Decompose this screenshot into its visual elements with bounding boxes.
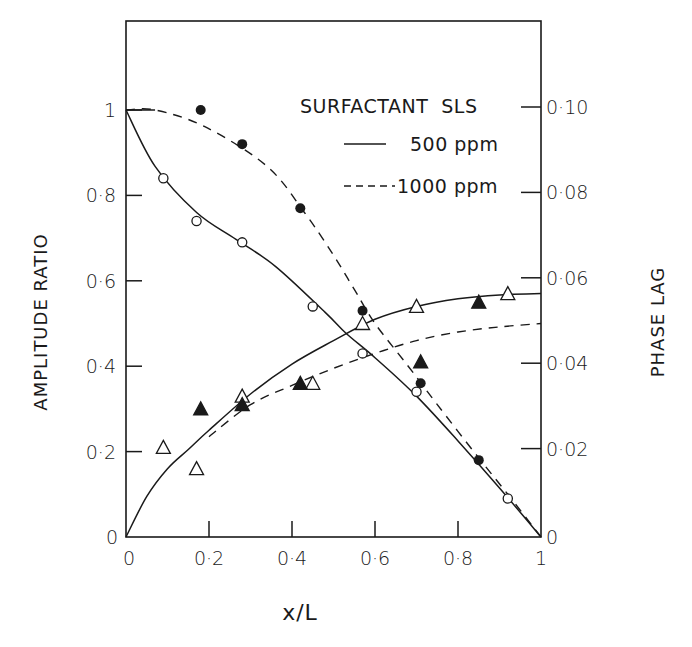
open-circle-marker-icon xyxy=(412,387,421,396)
y-tick-label-left: 0·4 xyxy=(86,355,116,377)
y-tick-label-right: 0 xyxy=(546,526,558,548)
filled-triangle-marker-icon xyxy=(414,355,428,368)
x-axis-title: x/L xyxy=(282,600,318,625)
legend-entry-500ppm: 500 ppm xyxy=(410,133,498,155)
x-tick-label: 0 xyxy=(123,547,135,569)
y-axis-title-left: AMPLITUDE RATIO xyxy=(30,233,51,410)
y-tick-label-right: 0·06 xyxy=(546,267,588,289)
x-tick-label: 0·6 xyxy=(360,547,390,569)
chart: 00·20·40·60·8100·20·40·60·8100·020·040·0… xyxy=(0,0,692,647)
fit-curve-5 xyxy=(126,109,541,537)
y-tick-label-left: 0·8 xyxy=(86,184,116,206)
fit-curve-7 xyxy=(209,324,541,437)
y-tick-label-left: 0 xyxy=(106,526,118,548)
filled-circle-marker-icon xyxy=(196,105,206,115)
open-triangle-marker-icon xyxy=(501,287,515,300)
open-triangle-marker-icon xyxy=(156,440,170,453)
legend-entry-1000ppm: 1000 ppm xyxy=(397,175,498,197)
fit-curves xyxy=(126,109,541,537)
open-triangle-marker-icon xyxy=(190,462,204,475)
x-tick-label: 0·8 xyxy=(443,547,473,569)
y-tick-label-right: 0·08 xyxy=(546,181,588,203)
filled-triangle-marker-icon xyxy=(194,402,208,415)
fit-curve-6 xyxy=(126,294,541,537)
open-circle-marker-icon xyxy=(159,174,168,183)
filled-circle-marker-icon xyxy=(474,455,484,465)
y-tick-label-right: 0·02 xyxy=(546,438,588,460)
filled-circle-marker-icon xyxy=(358,306,368,316)
filled-circle-marker-icon xyxy=(237,139,247,149)
y-tick-label-left: 0·2 xyxy=(86,441,116,463)
open-circle-marker-icon xyxy=(358,349,367,358)
filled-circle-marker-icon xyxy=(295,203,305,213)
open-circle-marker-icon xyxy=(238,238,247,247)
y-axis-title-right: PHASE LAG xyxy=(647,267,668,378)
x-tick-label: 1 xyxy=(535,547,547,569)
open-circle-marker-icon xyxy=(308,302,317,311)
open-circle-marker-icon xyxy=(192,216,201,225)
y-tick-label-right: 0·04 xyxy=(546,352,588,374)
y-tick-label-right: 0·10 xyxy=(546,96,588,118)
x-tick-label: 0·2 xyxy=(194,547,224,569)
y-tick-label-left: 1 xyxy=(104,99,116,121)
filled-triangle-marker-icon xyxy=(293,376,307,389)
open-circle-marker-icon xyxy=(503,494,512,503)
filled-circle-marker-icon xyxy=(416,378,426,388)
y-tick-label-left: 0·6 xyxy=(86,270,116,292)
legend: SURFACTANT SLS 500 ppm 1000 ppm xyxy=(300,95,498,197)
legend-title: SURFACTANT SLS xyxy=(300,95,478,117)
x-tick-label: 0·4 xyxy=(277,547,307,569)
